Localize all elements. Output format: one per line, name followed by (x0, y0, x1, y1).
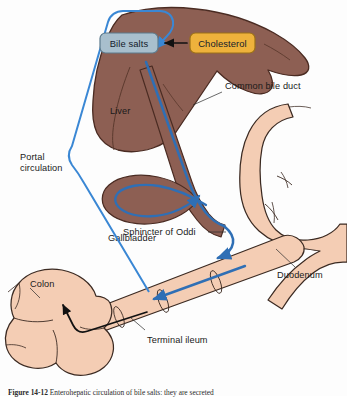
common-bile-duct-label: Common bile duct (225, 81, 301, 91)
bile-salts-label: Bile salts (110, 38, 149, 49)
colon-label: Colon (30, 279, 55, 289)
cholesterol-box[interactable]: Cholesterol (190, 33, 255, 53)
terminal-ileum-label: Terminal ileum (147, 335, 208, 345)
figure-caption-number: Figure 14-12 (8, 388, 48, 397)
colon-shape (5, 269, 113, 375)
bile-salts-box[interactable]: Bile salts (100, 33, 158, 53)
common-bile-duct-callout: Common bile duct (193, 81, 301, 105)
duodenum-label: Duodenum (277, 270, 323, 280)
figure-caption-text: Enterohepatic circulation of bile salts:… (50, 388, 214, 397)
liver-label: Liver (110, 106, 130, 116)
cholesterol-label: Cholesterol (198, 38, 247, 49)
portal-circulation-label-line2: circulation (20, 163, 62, 173)
terminal-ileum-callout: Terminal ileum (131, 318, 208, 345)
portal-circulation-label-line1: Portal (20, 152, 45, 162)
sphincter-of-oddi-label: Sphincter of Oddi (123, 227, 196, 237)
liver-shape: Liver (93, 8, 309, 152)
figure-caption: Figure 14-12 Enterohepatic circulation o… (8, 388, 341, 397)
